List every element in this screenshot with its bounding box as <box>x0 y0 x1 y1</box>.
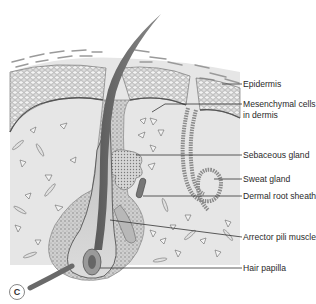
label-mesenchymal-cells: Mesenchymal cells <box>243 99 316 109</box>
blood-vessel <box>30 266 72 288</box>
label-mesenchymal-cells-line2: in dermis <box>243 110 278 120</box>
label-sebaceous-gland: Sebaceous gland <box>243 150 309 160</box>
label-hair-papilla: Hair papilla <box>243 263 286 273</box>
label-dermal-root-sheath: Dermal root sheath <box>243 191 316 201</box>
label-arrector-pili-muscle: Arrector pili muscle <box>243 232 316 242</box>
panel-label: C <box>9 284 25 300</box>
label-epidermis: Epidermis <box>243 79 281 89</box>
label-sweat-gland: Sweat gland <box>243 174 290 184</box>
hair-papilla <box>83 249 101 275</box>
